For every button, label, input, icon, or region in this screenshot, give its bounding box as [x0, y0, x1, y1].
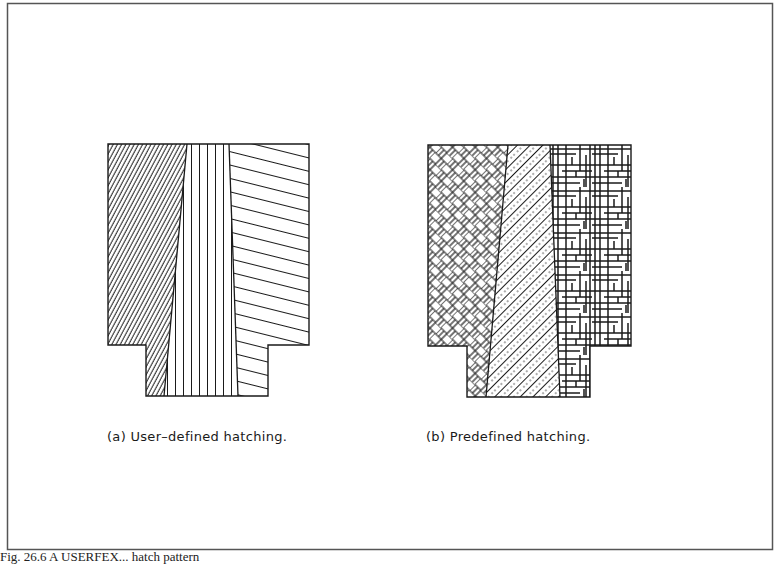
panel-a-label: (a) User–defined hatching. — [107, 429, 287, 444]
panel-b-label: (b) Predefined hatching. — [426, 429, 590, 444]
panel-a-right-region — [229, 144, 309, 396]
panel-a-user-defined-hatching: (a) User–defined hatching. — [107, 144, 309, 444]
panel-b-predefined-hatching: (b) Predefined hatching. — [426, 145, 631, 444]
figure-caption: Fig. 26.6 A USERFEX... hatch pattern — [0, 550, 199, 563]
